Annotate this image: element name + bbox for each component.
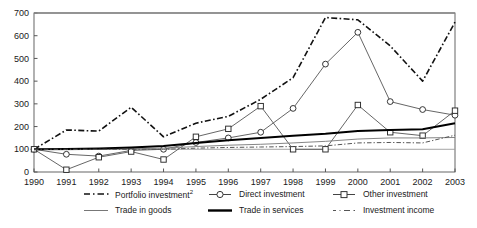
y-tick-label: 400 bbox=[14, 76, 29, 86]
legend-item-investment-income[interactable]: Investment income bbox=[331, 205, 434, 216]
legend-item-other-investment[interactable]: Other investment bbox=[331, 189, 428, 200]
x-tick-label: 2001 bbox=[380, 177, 400, 187]
dash-dot-line-icon bbox=[83, 188, 111, 199]
legend-label-trade-in-goods: Trade in goods bbox=[115, 205, 171, 216]
data-point-marker bbox=[161, 157, 166, 162]
legend-label-investment-income: Investment income bbox=[363, 205, 434, 216]
chart-figure: 0100200300400500600700 19901991199219931… bbox=[0, 0, 477, 228]
legend-item-direct-investment[interactable]: Direct investment bbox=[207, 189, 331, 200]
chart-legend: Portfolio investment2 Direct investment … bbox=[0, 186, 477, 228]
x-tick-label: 2002 bbox=[413, 177, 433, 187]
legend-row-2: Trade in goods Trade in services Investm… bbox=[0, 202, 477, 218]
series-investment-income bbox=[34, 135, 455, 149]
plot-area: 0100200300400500600700 19901991199219931… bbox=[0, 0, 477, 188]
series-line bbox=[34, 135, 455, 149]
x-tick-label: 1995 bbox=[186, 177, 206, 187]
x-tick-label: 1993 bbox=[121, 177, 141, 187]
legend-label-other-investment: Other investment bbox=[363, 189, 428, 200]
data-point-marker bbox=[452, 108, 457, 113]
legend-item-trade-in-goods[interactable]: Trade in goods bbox=[83, 205, 207, 216]
legend-label-direct-investment: Direct investment bbox=[239, 189, 305, 200]
data-point-marker bbox=[355, 29, 361, 35]
y-tick-label: 600 bbox=[14, 31, 29, 41]
data-point-marker bbox=[258, 129, 264, 135]
series-other-investment bbox=[31, 102, 457, 172]
x-tick-label: 1998 bbox=[283, 177, 303, 187]
y-tick-label: 300 bbox=[14, 99, 29, 109]
circle-marker-line-icon bbox=[207, 189, 235, 200]
y-tick-label: 500 bbox=[14, 54, 29, 64]
line-chart-svg: 0100200300400500600700 19901991199219931… bbox=[0, 0, 477, 188]
thin-line-icon bbox=[83, 205, 111, 216]
series-line bbox=[34, 123, 455, 149]
x-axis: 1990199119921993199419951996199719981999… bbox=[24, 169, 465, 187]
data-point-marker bbox=[193, 134, 198, 139]
y-tick-label: 200 bbox=[14, 122, 29, 132]
legend-item-portfolio-investment[interactable]: Portfolio investment2 bbox=[83, 187, 207, 201]
legend-label-portfolio-investment: Portfolio investment2 bbox=[115, 187, 193, 201]
square-marker-line-icon bbox=[331, 189, 359, 200]
data-point-marker bbox=[258, 103, 263, 108]
data-point-marker bbox=[420, 107, 426, 113]
x-tick-label: 2000 bbox=[348, 177, 368, 187]
x-tick-label: 2003 bbox=[445, 177, 465, 187]
x-tick-label: 1999 bbox=[315, 177, 335, 187]
x-tick-label: 1990 bbox=[24, 177, 44, 187]
data-point-marker bbox=[290, 106, 296, 112]
series-trade-in-services bbox=[34, 123, 455, 149]
data-point-marker bbox=[387, 99, 393, 105]
data-point-marker bbox=[63, 151, 69, 157]
dash-dot-thin-line-icon bbox=[331, 205, 359, 216]
legend-label-trade-in-services: Trade in services bbox=[239, 205, 303, 216]
y-tick-label: 100 bbox=[14, 144, 29, 154]
legend-item-trade-in-services[interactable]: Trade in services bbox=[207, 205, 331, 216]
x-tick-label: 1997 bbox=[251, 177, 271, 187]
thick-line-icon bbox=[207, 205, 235, 216]
x-tick-label: 1991 bbox=[56, 177, 76, 187]
x-tick-label: 1994 bbox=[154, 177, 174, 187]
data-point-marker bbox=[96, 155, 101, 160]
data-point-marker bbox=[64, 167, 69, 172]
legend-row-1: Portfolio investment2 Direct investment … bbox=[0, 186, 477, 202]
data-point-marker bbox=[355, 102, 360, 107]
data-point-marker bbox=[323, 147, 328, 152]
data-point-marker bbox=[323, 61, 329, 67]
data-point-marker bbox=[290, 147, 295, 152]
y-tick-label: 700 bbox=[14, 8, 29, 18]
x-tick-label: 1996 bbox=[218, 177, 238, 187]
data-point-marker bbox=[226, 126, 231, 131]
x-tick-label: 1992 bbox=[89, 177, 109, 187]
